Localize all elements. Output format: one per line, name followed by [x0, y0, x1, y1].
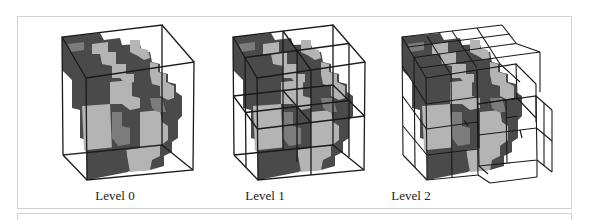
panel-level-1 — [233, 25, 365, 180]
panel-label-level-2: Level 2 — [371, 188, 451, 204]
octree-figure — [0, 0, 592, 220]
voxel-object — [62, 33, 182, 180]
panel-label-level-0: Level 0 — [75, 188, 155, 204]
panel-label-level-1: Level 1 — [225, 188, 305, 204]
voxel-object — [402, 33, 522, 180]
panel-level-2 — [402, 25, 552, 183]
panel-level-0 — [62, 25, 194, 180]
